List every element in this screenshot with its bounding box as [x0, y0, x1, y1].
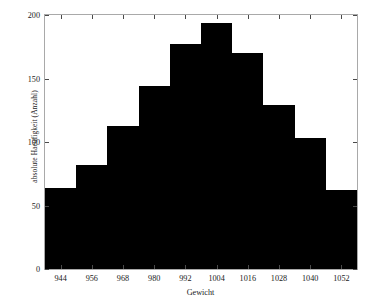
x-tick-mark — [92, 15, 93, 19]
x-tick-label: 968 — [117, 274, 129, 283]
x-tick-mark — [123, 15, 124, 19]
x-tick-mark — [341, 265, 342, 269]
x-tick-mark — [279, 265, 280, 269]
histogram-bar — [107, 126, 138, 270]
histogram-bar — [295, 138, 326, 269]
histogram-bar — [201, 23, 232, 269]
y-tick-label: 50 — [32, 201, 40, 210]
x-tick-mark — [310, 265, 311, 269]
x-tick-label: 980 — [148, 274, 160, 283]
x-tick-mark — [217, 15, 218, 19]
y-tick-mark — [45, 206, 49, 207]
x-tick-mark — [341, 15, 342, 19]
histogram-bar — [232, 53, 263, 269]
y-tick-mark — [353, 206, 357, 207]
histogram-bar — [326, 190, 357, 269]
y-tick-mark — [45, 15, 49, 16]
x-tick-mark — [61, 265, 62, 269]
y-tick-mark — [353, 79, 357, 80]
x-tick-label: 944 — [54, 274, 66, 283]
x-tick-label: 1052 — [333, 274, 349, 283]
x-tick-label: 1004 — [208, 274, 224, 283]
x-tick-mark — [248, 265, 249, 269]
x-tick-mark — [154, 15, 155, 19]
x-tick-mark — [248, 15, 249, 19]
y-tick-mark — [353, 269, 357, 270]
y-axis-label: absolute Haeufigkeit (Anzahl) — [30, 17, 39, 257]
x-tick-mark — [154, 265, 155, 269]
x-tick-mark — [92, 265, 93, 269]
y-tick-label: 100 — [28, 138, 40, 147]
histogram-bar — [139, 86, 170, 269]
x-tick-mark — [217, 265, 218, 269]
histogram-bar — [263, 105, 294, 269]
x-tick-label: 992 — [179, 274, 191, 283]
histogram-bar — [76, 165, 107, 269]
x-tick-label: 1040 — [302, 274, 318, 283]
x-tick-mark — [310, 15, 311, 19]
x-tick-mark — [185, 15, 186, 19]
y-tick-mark — [45, 79, 49, 80]
x-tick-mark — [185, 265, 186, 269]
x-tick-mark — [123, 265, 124, 269]
y-tick-mark — [45, 269, 49, 270]
histogram-figure: absolute Haeufigkeit (Anzahl) 0501001502… — [0, 0, 371, 307]
y-tick-label: 0 — [36, 265, 40, 274]
histogram-bar — [170, 44, 201, 269]
x-tick-label: 956 — [86, 274, 98, 283]
x-tick-label: 1016 — [240, 274, 256, 283]
x-tick-label: 1028 — [271, 274, 287, 283]
bar-series — [45, 15, 357, 269]
y-tick-label: 200 — [28, 11, 40, 20]
y-tick-mark — [353, 142, 357, 143]
x-tick-mark — [61, 15, 62, 19]
plot-area: 050100150200 944956968980992100410161028… — [44, 14, 358, 270]
y-tick-label: 150 — [28, 74, 40, 83]
y-tick-mark — [353, 15, 357, 16]
histogram-bar — [45, 188, 76, 269]
x-axis-label: Gewicht — [44, 288, 357, 297]
y-tick-mark — [45, 142, 49, 143]
x-tick-mark — [279, 15, 280, 19]
